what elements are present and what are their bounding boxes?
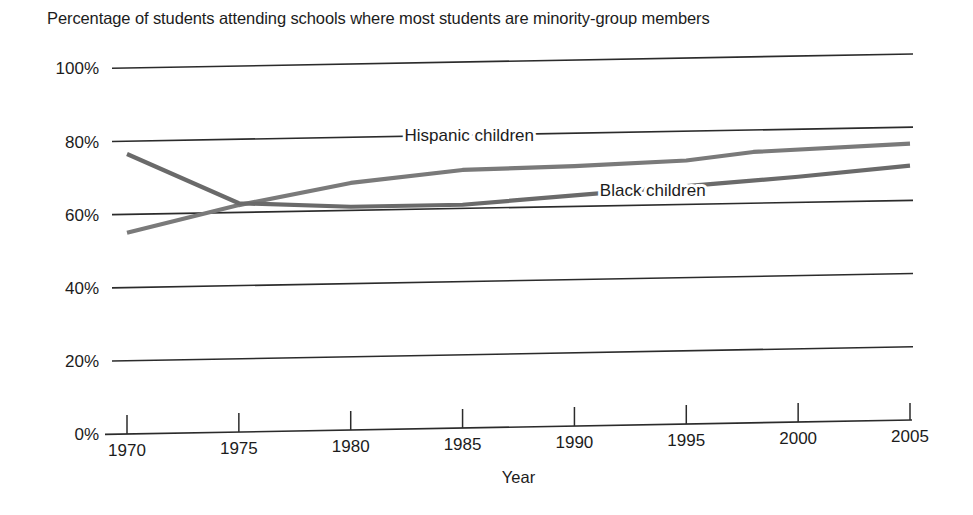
series-label-hispanic-children: Hispanic children <box>405 126 534 145</box>
y-tick-label-100: 100% <box>56 59 99 78</box>
x-tick-label-1975: 1975 <box>220 439 258 458</box>
gridline-100 <box>112 54 913 68</box>
series-line-black-children <box>127 154 910 207</box>
y-tick-label-20: 20% <box>65 352 99 371</box>
x-tick-label-1990: 1990 <box>556 433 594 452</box>
y-tick-labels-group: 0%20%40%60%80%100% <box>56 59 99 444</box>
x-axis-title: Year <box>502 468 536 486</box>
x-tick-label-1985: 1985 <box>444 435 482 454</box>
x-axis-title-group: Year <box>502 468 536 486</box>
x-tick-label-1980: 1980 <box>332 437 370 456</box>
gridline-40 <box>112 274 913 288</box>
y-tick-label-80: 80% <box>65 133 99 152</box>
x-tick-label-2005: 2005 <box>891 427 929 446</box>
x-tick-label-1970: 1970 <box>108 441 146 460</box>
line-chart-svg: 0%20%40%60%80%100% 197019751980198519901… <box>0 0 973 515</box>
x-tick-label-2000: 2000 <box>779 429 817 448</box>
plot-area: 0%20%40%60%80%100% 197019751980198519901… <box>0 0 973 515</box>
x-tick-label-1995: 1995 <box>667 431 705 450</box>
series-label-black-children: Black children <box>600 181 706 200</box>
figure-container: Percentage of students attending schools… <box>0 0 973 515</box>
y-tick-label-0: 0% <box>74 425 99 444</box>
series-line-hispanic-children <box>127 144 910 233</box>
series-lines-group <box>127 144 910 233</box>
gridline-20 <box>112 347 913 361</box>
y-tick-label-60: 60% <box>65 206 99 225</box>
y-tick-label-40: 40% <box>65 279 99 298</box>
